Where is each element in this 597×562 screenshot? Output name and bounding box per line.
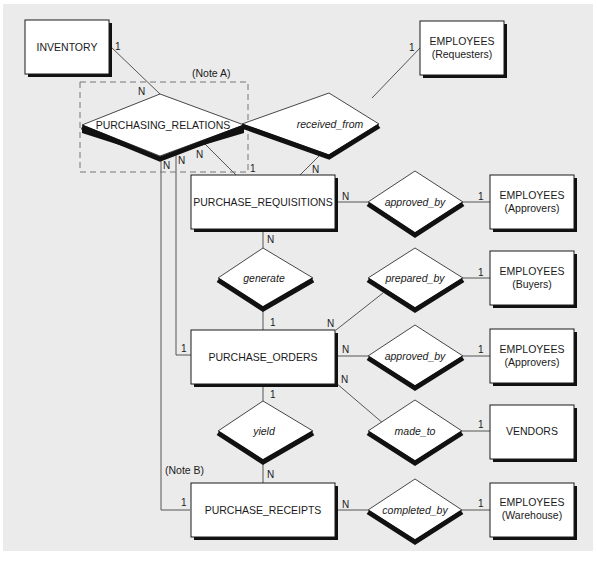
er-diagram: INVENTORY EMPLOYEES (Requesters) PURCHAS… <box>0 0 597 562</box>
cardinality-label: 1 <box>478 267 484 278</box>
line-relations-orders <box>176 152 191 355</box>
relationship-label: received_from <box>297 118 364 130</box>
line-orders-madeto <box>336 383 384 424</box>
cardinality-label: 1 <box>409 42 415 53</box>
line-received-requesters <box>372 48 420 98</box>
cardinality-label: N <box>178 155 185 166</box>
entity-sublabel: (Requesters) <box>432 48 493 60</box>
relationship-label: prepared_by <box>385 272 446 284</box>
entity-label: INVENTORY <box>37 41 98 53</box>
entity-sublabel: (Approvers) <box>505 356 560 368</box>
line-inventory-relations <box>110 46 160 94</box>
cardinality-label: N <box>196 149 203 160</box>
cardinality-label: N <box>163 160 170 171</box>
entity-purchase-receipts[interactable]: PURCHASE_RECEIPTS <box>191 483 338 540</box>
cardinality-label: N <box>312 164 319 175</box>
cardinality-label: 1 <box>478 498 484 509</box>
cardinality-label: N <box>327 318 334 329</box>
entity-vendors[interactable]: VENDORS <box>490 405 577 462</box>
relationship-approved-by-po[interactable]: approved_by <box>368 325 463 388</box>
line-orders-prepared <box>336 293 383 330</box>
entity-employees-buyers[interactable]: EMPLOYEES (Buyers) <box>490 251 577 308</box>
cardinality-label: 1 <box>478 191 484 202</box>
entity-label: PURCHASE_ORDERS <box>208 351 317 363</box>
cardinality-label: 1 <box>478 344 484 355</box>
entity-inventory[interactable]: INVENTORY <box>25 20 112 77</box>
entity-label: EMPLOYEES <box>500 496 565 508</box>
line-relations-requisitions <box>203 142 236 175</box>
cardinality-label: N <box>342 191 349 202</box>
cardinality-label: N <box>138 86 145 97</box>
note-a-label: (Note A) <box>192 67 231 79</box>
cardinality-label: 1 <box>181 497 187 508</box>
cardinality-label: N <box>267 234 274 245</box>
relationship-approved-by-req[interactable]: approved_by <box>368 171 463 235</box>
entity-label: EMPLOYEES <box>430 35 495 47</box>
relationship-label: made_to <box>395 425 436 437</box>
entity-label: EMPLOYEES <box>500 343 565 355</box>
cardinality-label: N <box>341 374 348 385</box>
er-diagram-canvas: INVENTORY EMPLOYEES (Requesters) PURCHAS… <box>0 0 597 562</box>
entity-sublabel: (Buyers) <box>512 278 552 290</box>
entity-label: EMPLOYEES <box>500 265 565 277</box>
entity-label: PURCHASE_RECEIPTS <box>205 504 322 516</box>
relationship-prepared-by[interactable]: prepared_by <box>368 248 463 310</box>
entity-label: PURCHASE_REQUISITIONS <box>193 196 332 208</box>
relationship-purchasing-relations[interactable]: PURCHASING_RELATIONS <box>82 94 244 161</box>
cardinality-label: 1 <box>478 419 484 430</box>
cardinality-label: N <box>342 344 349 355</box>
entity-label: EMPLOYEES <box>500 189 565 201</box>
relationship-label: PURCHASING_RELATIONS <box>96 119 231 131</box>
relationship-label: completed_by <box>382 504 448 516</box>
cardinality-label: 1 <box>181 343 187 354</box>
relationship-yield[interactable]: yield <box>218 401 313 462</box>
cardinality-label: 1 <box>250 163 256 174</box>
cardinality-label: 1 <box>270 389 276 400</box>
entity-purchase-orders[interactable]: PURCHASE_ORDERS <box>191 330 338 387</box>
entity-employees-requesters[interactable]: EMPLOYEES (Requesters) <box>420 21 507 78</box>
entity-label: VENDORS <box>506 425 558 437</box>
relationship-label: generate <box>243 272 285 284</box>
relationship-label: approved_by <box>385 350 446 362</box>
cardinality-label: N <box>267 469 274 480</box>
relationship-label: approved_by <box>385 196 446 208</box>
entity-sublabel: (Warehouse) <box>502 509 562 521</box>
entity-employees-approvers-req[interactable]: EMPLOYEES (Approvers) <box>490 175 577 232</box>
note-b-label: (Note B) <box>165 464 204 476</box>
relationship-made-to[interactable]: made_to <box>368 400 462 463</box>
relationship-received-from[interactable]: received_from <box>242 93 379 157</box>
cardinality-label: 1 <box>115 41 121 52</box>
relationship-label: yield <box>252 425 276 437</box>
entity-employees-warehouse[interactable]: EMPLOYEES (Warehouse) <box>490 483 577 540</box>
cardinality-label: N <box>342 499 349 510</box>
entity-purchase-requisitions[interactable]: PURCHASE_REQUISITIONS <box>191 175 338 232</box>
relationship-completed-by[interactable]: completed_by <box>368 479 462 542</box>
cardinality-label: 1 <box>270 317 276 328</box>
relationship-generate[interactable]: generate <box>218 248 313 309</box>
entity-sublabel: (Approvers) <box>505 202 560 214</box>
entity-employees-approvers-po[interactable]: EMPLOYEES (Approvers) <box>490 329 577 386</box>
